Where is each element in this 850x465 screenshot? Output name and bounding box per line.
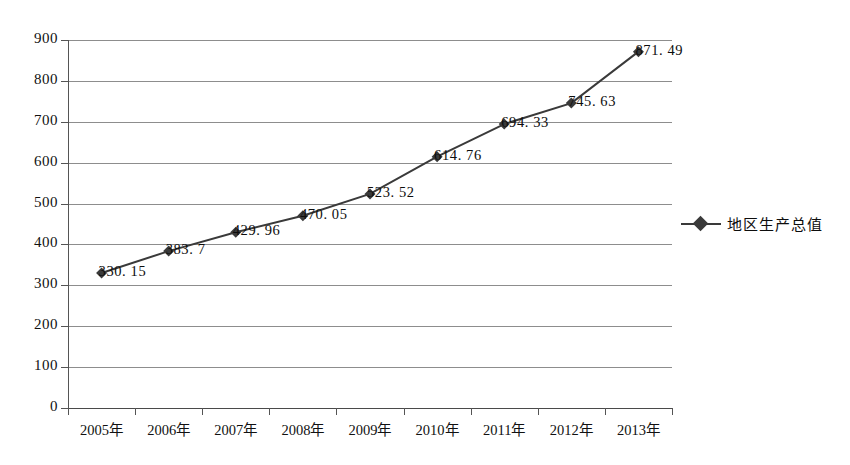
plot-area: 330. 15383. 7429. 96470. 05523. 52614. 7… xyxy=(68,40,672,408)
data-point-label: 429. 96 xyxy=(233,222,281,239)
diamond-marker-icon xyxy=(693,215,709,231)
y-axis-label: 900 xyxy=(14,30,58,47)
x-axis-tick xyxy=(538,408,539,415)
y-axis-label: 100 xyxy=(14,357,58,374)
x-axis-tick xyxy=(471,408,472,415)
gridline xyxy=(68,408,672,409)
y-axis-label: 300 xyxy=(14,275,58,292)
x-axis-label: 2007年 xyxy=(202,418,269,439)
y-axis-label: 200 xyxy=(14,316,58,333)
legend-label: 地区生产总值 xyxy=(727,213,823,234)
y-axis-label: 0 xyxy=(14,398,58,415)
x-axis-label: 2013年 xyxy=(605,418,672,439)
x-axis-label: 2005年 xyxy=(68,418,135,439)
y-axis-label: 500 xyxy=(14,194,58,211)
data-point-label: 383. 7 xyxy=(166,241,206,258)
data-point-label: 871. 49 xyxy=(635,42,683,59)
y-axis-label: 600 xyxy=(14,153,58,170)
x-axis-tick xyxy=(135,408,136,415)
data-point-label: 470. 05 xyxy=(300,206,348,223)
x-axis-tick xyxy=(672,408,673,415)
data-point-label: 330. 15 xyxy=(99,263,147,280)
x-axis-tick xyxy=(202,408,203,415)
x-axis-label: 2008年 xyxy=(269,418,336,439)
x-axis-tick xyxy=(404,408,405,415)
x-axis-tick xyxy=(269,408,270,415)
data-point-label: 745. 63 xyxy=(568,93,616,110)
x-axis-label: 2006年 xyxy=(135,418,202,439)
legend: 地区生产总值 xyxy=(681,213,823,234)
legend-marker-icon xyxy=(681,217,721,231)
series-polyline xyxy=(102,52,639,273)
x-axis-label: 2011年 xyxy=(471,418,538,439)
x-axis-tick xyxy=(68,408,69,415)
y-axis-label: 800 xyxy=(14,71,58,88)
line-chart: 330. 15383. 7429. 96470. 05523. 52614. 7… xyxy=(0,0,850,465)
data-point-label: 523. 52 xyxy=(367,184,415,201)
x-axis-label: 2009年 xyxy=(336,418,403,439)
x-axis-label: 2012年 xyxy=(538,418,605,439)
y-axis-label: 400 xyxy=(14,234,58,251)
x-axis-tick xyxy=(605,408,606,415)
data-point-label: 614. 76 xyxy=(434,147,482,164)
y-axis-label: 700 xyxy=(14,112,58,129)
x-axis-tick xyxy=(336,408,337,415)
x-axis-label: 2010年 xyxy=(404,418,471,439)
data-point-label: 694. 33 xyxy=(501,114,549,131)
